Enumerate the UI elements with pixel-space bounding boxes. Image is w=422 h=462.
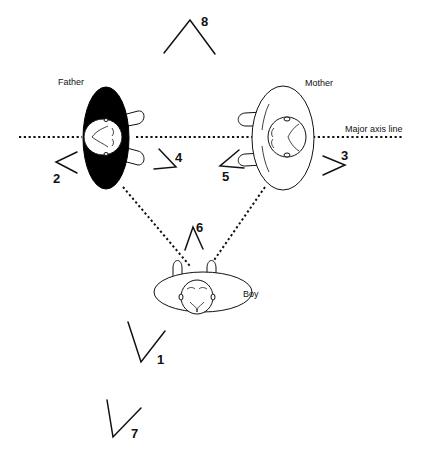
mother-label: Mother <box>305 78 333 88</box>
angle-mark-5: 5 <box>220 150 244 184</box>
angle-mark-6: 6 <box>185 220 203 250</box>
mother-figure <box>238 86 314 190</box>
angle-label-6: 6 <box>196 220 203 235</box>
angle-label-1: 1 <box>157 352 164 367</box>
angle-label-7: 7 <box>131 426 138 441</box>
boy-label: Boy <box>243 289 259 299</box>
angle-label-2: 2 <box>53 171 60 186</box>
family-seating-diagram: Major axis line Father Mother <box>0 0 422 462</box>
boy-figure <box>154 261 252 315</box>
father-label: Father <box>58 77 84 87</box>
sight-lines <box>123 187 265 266</box>
angle-label-4: 4 <box>175 150 183 165</box>
major-axis-label: Major axis line <box>345 124 403 134</box>
angle-label-5: 5 <box>222 169 229 184</box>
angle-mark-8: 8 <box>164 14 215 54</box>
angle-mark-1: 1 <box>128 322 165 367</box>
angle-label-8: 8 <box>201 14 208 29</box>
angle-mark-2: 2 <box>53 152 77 186</box>
angle-mark-7: 7 <box>107 400 141 441</box>
angle-label-3: 3 <box>341 148 348 163</box>
angle-mark-3: 3 <box>323 148 348 175</box>
father-figure <box>83 87 144 189</box>
angle-mark-4: 4 <box>154 149 183 169</box>
